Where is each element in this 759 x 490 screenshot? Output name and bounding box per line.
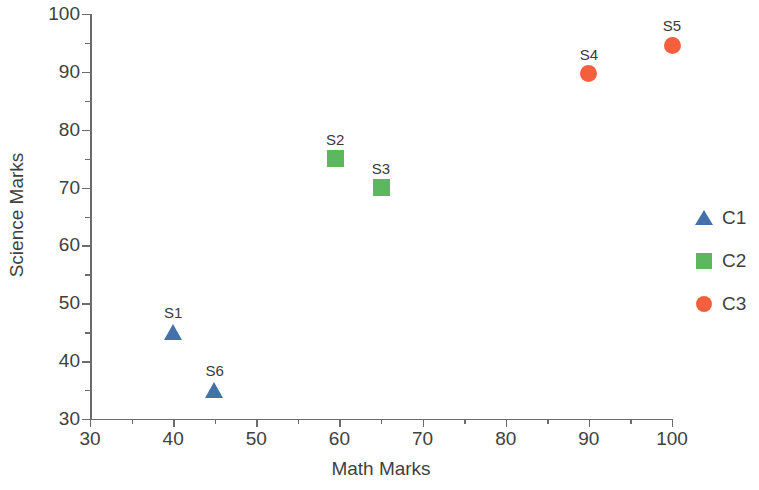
triangle-icon — [695, 210, 713, 225]
x-minor-tick-mark — [381, 419, 382, 424]
data-point-label-s5: S5 — [663, 17, 681, 34]
legend-label: C1 — [722, 208, 746, 227]
x-tick-mark — [339, 419, 340, 427]
y-tick-label-text: 80 — [30, 120, 80, 139]
x-tick-mark — [672, 419, 673, 427]
x-axis-title: Math Marks — [90, 458, 672, 480]
y-tick-label-text: 40 — [30, 351, 80, 370]
legend-label: C2 — [722, 251, 746, 270]
y-tick-label: 30 — [30, 409, 80, 429]
data-point-label-s6: S6 — [206, 362, 224, 379]
data-point-s5[interactable] — [664, 37, 681, 54]
data-point-label-s1: S1 — [164, 304, 182, 321]
x-tick-label-text: 30 — [79, 428, 100, 450]
data-point-s6[interactable] — [205, 382, 223, 398]
y-tick-label: 90 — [30, 62, 80, 82]
y-tick-mark — [82, 14, 90, 15]
x-tick-mark — [173, 419, 174, 427]
x-tick-mark — [506, 419, 507, 427]
data-point-label-s2: S2 — [326, 131, 344, 148]
x-tick-mark — [423, 419, 424, 427]
y-tick-label-text: 100 — [30, 4, 80, 23]
legend-item-c2[interactable]: C2 — [694, 239, 758, 282]
x-tick-mark — [256, 419, 257, 427]
y-tick-label: 50 — [30, 293, 80, 313]
y-tick-label-text: 70 — [30, 178, 80, 197]
data-point-s1[interactable] — [164, 324, 182, 340]
y-tick-label: 70 — [30, 178, 80, 198]
y-tick-label: 100 — [30, 4, 80, 24]
x-tick-label: 60 — [309, 428, 369, 450]
y-tick-label: 80 — [30, 120, 80, 140]
legend-swatch-circle-icon — [694, 296, 714, 312]
circle-icon — [696, 296, 712, 312]
chart-legend: C1C2C3 — [694, 196, 758, 325]
data-point-s3[interactable] — [373, 179, 390, 196]
y-tick-label-text: 50 — [30, 293, 80, 312]
x-minor-tick-mark — [547, 419, 548, 424]
x-tick-label: 70 — [393, 428, 453, 450]
legend-swatch-triangle-icon — [694, 210, 714, 225]
x-tick-label-text: 100 — [656, 428, 688, 450]
x-tick-label-text: 80 — [495, 428, 516, 450]
x-tick-label-text: 40 — [163, 428, 184, 450]
y-tick-mark — [82, 361, 90, 362]
y-tick-label-text: 60 — [30, 235, 80, 254]
x-tick-label: 100 — [642, 428, 702, 450]
x-tick-label: 40 — [143, 428, 203, 450]
x-minor-tick-mark — [215, 419, 216, 424]
y-tick-mark — [82, 188, 90, 189]
y-tick-label: 60 — [30, 235, 80, 255]
x-tick-label: 30 — [60, 428, 120, 450]
y-tick-mark — [82, 245, 90, 246]
y-tick-label: 40 — [30, 351, 80, 371]
y-tick-mark — [82, 419, 90, 420]
y-axis-title: Science Marks — [0, 0, 34, 430]
data-point-label-s3: S3 — [372, 160, 390, 177]
x-minor-tick-mark — [630, 419, 631, 424]
x-tick-label-text: 50 — [246, 428, 267, 450]
square-icon — [696, 253, 712, 269]
x-tick-mark — [90, 419, 91, 427]
y-axis-title-text: Science Marks — [6, 153, 28, 278]
x-minor-tick-mark — [464, 419, 465, 424]
x-minor-tick-mark — [298, 419, 299, 424]
x-tick-mark — [589, 419, 590, 427]
data-point-s2[interactable] — [327, 150, 344, 167]
y-tick-mark — [82, 72, 90, 73]
legend-item-c1[interactable]: C1 — [694, 196, 758, 239]
x-tick-label: 90 — [559, 428, 619, 450]
y-tick-label-text: 30 — [30, 409, 80, 428]
scatter-chart: Science Marks Math Marks 304050607080901… — [0, 0, 759, 490]
x-tick-label-text: 70 — [412, 428, 433, 450]
data-point-label-s4: S4 — [580, 46, 598, 63]
y-tick-mark — [82, 130, 90, 131]
x-tick-label: 80 — [476, 428, 536, 450]
legend-item-c3[interactable]: C3 — [694, 282, 758, 325]
legend-swatch-square-icon — [694, 253, 714, 269]
y-tick-label-text: 90 — [30, 62, 80, 81]
x-tick-label-text: 60 — [329, 428, 350, 450]
x-tick-label: 50 — [226, 428, 286, 450]
legend-label: C3 — [722, 294, 746, 313]
x-minor-tick-mark — [132, 419, 133, 424]
x-tick-label-text: 90 — [578, 428, 599, 450]
y-tick-mark — [82, 303, 90, 304]
